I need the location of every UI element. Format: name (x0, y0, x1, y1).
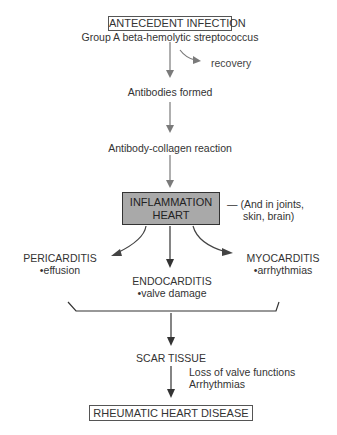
myocarditis-title: MYOCARDITIS (247, 252, 320, 264)
myocarditis-detail: •arrhythmias (254, 264, 313, 276)
scar-tissue-label: SCAR TISSUE (136, 352, 206, 364)
inflammation-note-line1: — (And in joints, (227, 198, 304, 210)
consequence-valve: Loss of valve functions (189, 366, 295, 378)
pericarditis-title: PERICARDITIS (23, 252, 97, 264)
inflammation-heart-box: INFLAMMATION HEART (122, 192, 220, 225)
inflammation-line1: INFLAMMATION (123, 196, 219, 209)
pericarditis-detail: •effusion (40, 264, 80, 276)
antibodies-formed-label: Antibodies formed (128, 86, 213, 98)
endocarditis-detail: •valve damage (137, 287, 206, 299)
pathogen-label: Group A beta-hemolytic streptococcus (82, 31, 259, 43)
antibody-collagen-label: Antibody-collagen reaction (108, 142, 232, 154)
inflammation-note-line2: skin, brain) (243, 210, 294, 222)
antecedent-infection-box: ANTECEDENT INFECTION (108, 16, 232, 31)
endocarditis-title: ENDOCARDITIS (132, 275, 211, 287)
rheumatic-heart-disease-box: RHEUMATIC HEART DISEASE (89, 405, 253, 421)
inflammation-line2: HEART (123, 209, 219, 222)
consequence-arrhythmias: Arrhythmias (189, 378, 245, 390)
recovery-label: recovery (211, 57, 251, 69)
